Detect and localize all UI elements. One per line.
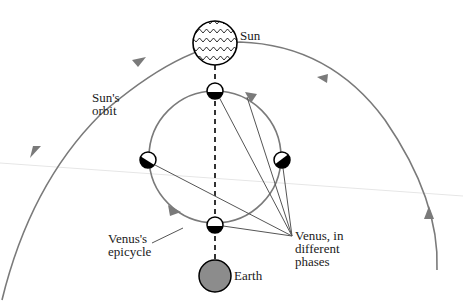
faint-scan-line	[0, 163, 463, 196]
epicycle-diagram: Sun Sun's orbit Venus's epicycle Venus, …	[0, 0, 463, 304]
venus-phases-label-3: phases	[295, 254, 330, 269]
epicycle-arrow-icon	[168, 205, 181, 216]
venus-pointer-lines	[155, 97, 292, 236]
orbit-arrow-icon	[317, 74, 328, 83]
earth-icon	[199, 260, 231, 292]
venus-left-icon	[140, 152, 156, 172]
venus-bottom-icon	[205, 217, 225, 236]
sun-icon	[193, 21, 237, 65]
epicycle-pointer-line	[152, 228, 183, 243]
orbit-arrow-icon	[424, 206, 434, 219]
earth-label: Earth	[234, 268, 263, 283]
orbit-arrow-icon	[132, 57, 146, 67]
orbit-arrow-icon	[30, 146, 41, 158]
venus-top-icon	[205, 83, 225, 102]
epicycle-label-2: epicycle	[108, 244, 152, 259]
venus-right-icon	[274, 152, 290, 172]
sun-label: Sun	[240, 28, 261, 43]
sun-orbit-label-2: orbit	[92, 103, 117, 118]
